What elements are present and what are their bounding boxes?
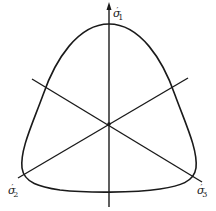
sigma1-label: σ′1 [113, 6, 123, 22]
sigma1-arrowhead-icon [107, 2, 112, 10]
sigma2-label: σ′2 [8, 183, 18, 199]
origin-point [107, 122, 111, 126]
yield-locus-diagram [0, 0, 216, 211]
sigma3-label: σ′3 [197, 183, 207, 199]
sigma3-axis-line [32, 79, 202, 182]
